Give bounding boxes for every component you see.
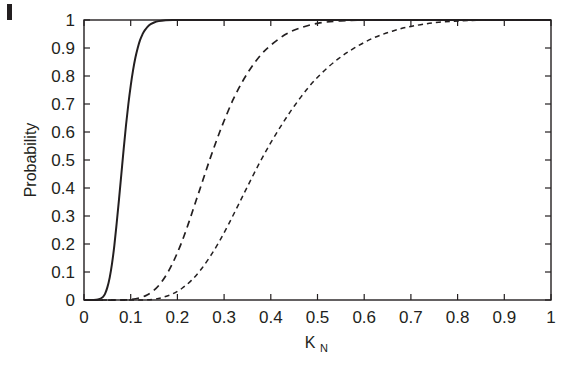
plot-frame [84,20,551,300]
x-tick-label: 0.2 [166,308,190,327]
x-axis-ticks [84,20,551,300]
probability-vs-kn-chart: 00.10.20.30.40.50.60.70.80.91 00.10.20.3… [0,0,581,367]
x-tick-label: 0.6 [352,308,376,327]
x-axis-title: K N [305,334,328,354]
x-tick-label: 0 [79,308,88,327]
y-tick-label: 0.8 [51,67,75,86]
x-axis-title-base: K [305,334,316,351]
y-axis-tick-labels: 00.10.20.30.40.50.60.70.80.91 [51,11,75,310]
y-tick-label: 0.9 [51,39,75,58]
y-axis-ticks [84,20,551,300]
y-tick-label: 0.5 [51,151,75,170]
curve-curve-2 [84,20,551,300]
x-tick-label: 0.7 [399,308,423,327]
x-tick-label: 0.8 [446,308,470,327]
y-axis-title: Probability [22,123,39,198]
x-tick-label: 1 [546,308,555,327]
y-tick-label: 0.3 [51,207,75,226]
x-tick-label: 0.4 [259,308,283,327]
y-tick-label: 0.4 [51,179,75,198]
y-tick-label: 0.6 [51,123,75,142]
y-tick-label: 0.2 [51,235,75,254]
y-tick-label: 1 [66,11,75,30]
x-tick-label: 0.5 [306,308,330,327]
x-axis-tick-labels: 00.10.20.30.40.50.60.70.80.91 [79,308,555,327]
y-tick-label: 0.1 [51,263,75,282]
x-axis-title-subscript: N [320,342,328,354]
x-tick-label: 0.1 [119,308,143,327]
x-tick-label: 0.9 [492,308,516,327]
y-tick-label: 0 [66,291,75,310]
figure-container: 00.10.20.30.40.50.60.70.80.91 00.10.20.3… [0,0,581,367]
curve-curve-1 [84,20,551,300]
data-curves [84,20,551,300]
x-tick-label: 0.3 [212,308,236,327]
page-edge-artifact [7,4,12,20]
y-tick-label: 0.7 [51,95,75,114]
curve-curve-3 [84,20,551,300]
